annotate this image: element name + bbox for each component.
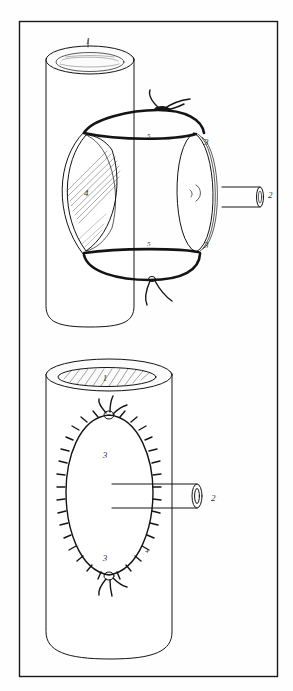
surgical-figure: 1 2 3 3 4 5 5 <box>0 0 293 691</box>
upper-diagram: 1 2 3 3 4 5 5 <box>46 36 273 327</box>
upper-suture-bottom-tail-left <box>146 281 150 305</box>
lower-label-4: 4 <box>145 547 149 555</box>
lower-label-3-bottom: 3 <box>102 553 108 563</box>
upper-cylinder-rim-outer <box>46 46 134 74</box>
upper-label-1: 1 <box>86 36 91 46</box>
lower-diagram: 1 2 3 3 4 <box>46 359 216 659</box>
upper-stoma-outer <box>177 133 213 252</box>
upper-label-5-bottom: 5 <box>147 240 151 248</box>
lower-tube-end-cap <box>192 484 202 508</box>
upper-label-4: 4 <box>84 188 89 198</box>
upper-suture-top-tail-left <box>149 90 160 109</box>
upper-suture-bottom-tail-right <box>155 281 172 301</box>
lower-label-2: 2 <box>211 493 216 503</box>
figure-page: 1 2 3 3 4 5 5 <box>0 0 293 691</box>
upper-label-2: 2 <box>268 190 273 200</box>
upper-label-5-top: 5 <box>147 132 151 140</box>
upper-label-3-bottom: 3 <box>203 240 209 250</box>
lower-label-3-top: 3 <box>102 450 108 460</box>
upper-label-3-top: 3 <box>203 137 209 147</box>
lower-cylinder-body <box>46 366 172 659</box>
lower-label-1: 1 <box>103 373 108 383</box>
upper-tube-end-cap <box>257 187 264 207</box>
